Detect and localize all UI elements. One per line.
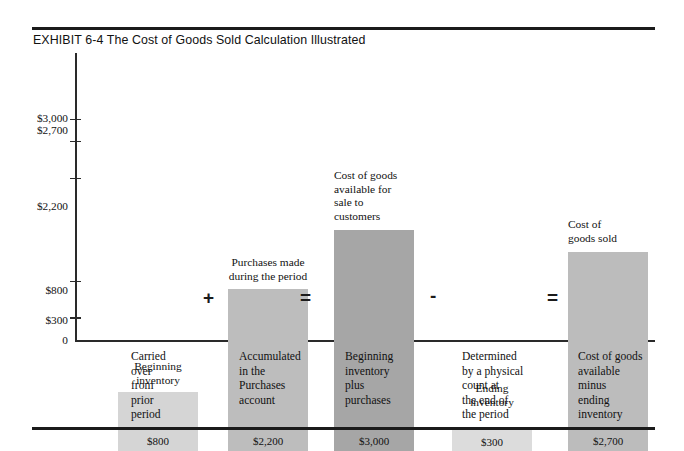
y-tick-label-800: $800 [12,284,68,296]
y-tick-label-300: $300 [12,314,68,326]
exhibit-rule-bottom [32,427,655,430]
y-tick-label-0-wrap: 0 [6,334,68,347]
operator-equals-1: = [300,288,311,307]
y-tick-label-2700: $2,700 [12,124,68,136]
bar-label-cost-of-goods-sold: Cost of goods sold [568,218,648,245]
bar-rect-goods-available [334,230,414,451]
y-tick-label-0: 0 [12,334,68,346]
y-tick-mark-2200 [70,178,81,180]
operator-minus: - [430,286,436,305]
y-tick-mark-2700 [70,141,81,143]
bar-value-beginning-inventory: $800 [118,435,198,447]
y-tick-mark-3000 [70,119,81,121]
bar-chart-plot: $3,000 $2,700 $2,200 $800 $300 0 Beginni… [0,0,684,451]
y-axis-line [75,53,77,342]
bar-value-ending-inventory: $300 [452,436,532,448]
y-tick-label-3000: $3,000 [12,112,68,124]
axis-caption-cost-of-goods-sold: Cost of goods available minus ending inv… [578,350,678,423]
y-tick-mark-300 [70,317,81,319]
axis-caption-beginning-inventory: Carried over from prior period [131,350,226,423]
y-tick-label-2200: $2,200 [12,200,68,212]
bar-label-goods-available: Cost of goods available for sale to cust… [334,169,414,223]
axis-caption-ending-inventory: Determined by a physical count at the en… [462,350,567,423]
bar-value-goods-available: $3,000 [334,435,414,447]
operator-plus: + [203,288,214,307]
axis-caption-purchases: Accumulated in the Purchases account [239,350,339,408]
y-tick-label-2200-wrap: $2,200 [6,200,68,213]
axis-caption-goods-available: Beginning inventory plus purchases [345,350,445,408]
bar-value-cost-of-goods-sold: $2,700 [568,435,648,447]
y-tick-mark-800 [70,281,81,283]
y-tick-label-300-wrap: $300 [6,314,68,327]
y-tick-label-800-wrap: $800 [6,284,68,297]
bar-label-purchases: Purchases made during the period [202,256,334,283]
operator-equals-2: = [547,288,558,307]
y-tick-label-2700-wrap: $2,700 [6,124,68,137]
bar-value-purchases: $2,200 [228,435,308,447]
